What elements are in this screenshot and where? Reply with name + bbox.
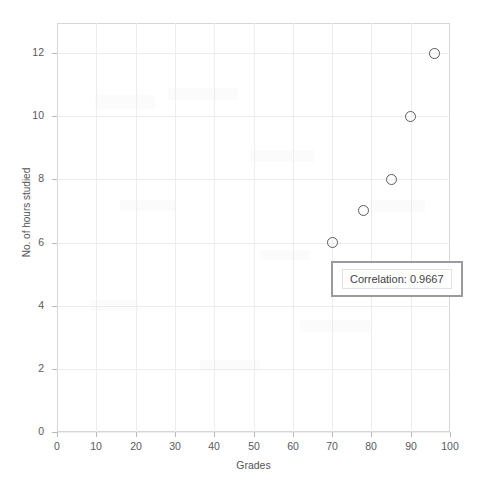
y-tick-label: 0 bbox=[18, 426, 44, 437]
x-tick-label: 90 bbox=[396, 441, 426, 452]
x-tick-mark bbox=[96, 432, 97, 437]
correlation-annotation-text: Correlation: 0.9667 bbox=[342, 269, 452, 289]
x-tick-mark bbox=[332, 432, 333, 437]
data-point bbox=[429, 48, 440, 59]
y-tick-label: 4 bbox=[18, 300, 44, 311]
x-tick-mark bbox=[371, 432, 372, 437]
y-tick-mark bbox=[52, 369, 57, 370]
x-tick-label: 0 bbox=[42, 441, 72, 452]
x-tick-mark bbox=[254, 432, 255, 437]
x-tick-label: 50 bbox=[239, 441, 269, 452]
gridline-vertical bbox=[175, 23, 176, 432]
data-point bbox=[405, 111, 416, 122]
x-tick-label: 70 bbox=[317, 441, 347, 452]
x-tick-mark bbox=[136, 432, 137, 437]
y-tick-label: 12 bbox=[18, 47, 44, 58]
x-tick-label: 10 bbox=[81, 441, 111, 452]
gridline-vertical bbox=[293, 23, 294, 432]
y-tick-mark bbox=[52, 179, 57, 180]
x-tick-mark bbox=[57, 432, 58, 437]
x-tick-label: 40 bbox=[199, 441, 229, 452]
y-tick-mark bbox=[52, 243, 57, 244]
x-tick-mark bbox=[450, 432, 451, 437]
y-tick-label: 2 bbox=[18, 363, 44, 374]
gridline-vertical bbox=[214, 23, 215, 432]
y-axis-title: No. of hours studied bbox=[21, 153, 32, 273]
y-tick-label: 10 bbox=[18, 110, 44, 121]
correlation-annotation-box: Correlation: 0.9667 bbox=[331, 261, 463, 297]
x-tick-mark bbox=[411, 432, 412, 437]
y-tick-mark bbox=[52, 116, 57, 117]
y-tick-mark bbox=[52, 53, 57, 54]
data-point bbox=[386, 174, 397, 185]
y-tick-mark bbox=[52, 306, 57, 307]
data-point bbox=[327, 237, 338, 248]
x-tick-mark bbox=[293, 432, 294, 437]
x-tick-label: 20 bbox=[121, 441, 151, 452]
gridline-vertical bbox=[254, 23, 255, 432]
x-tick-label: 60 bbox=[278, 441, 308, 452]
x-tick-label: 80 bbox=[356, 441, 386, 452]
x-axis-title: Grades bbox=[57, 459, 450, 471]
gridline-vertical bbox=[371, 23, 372, 432]
gridline-vertical bbox=[411, 23, 412, 432]
gridline-vertical bbox=[332, 23, 333, 432]
x-tick-mark bbox=[175, 432, 176, 437]
x-tick-label: 100 bbox=[435, 441, 465, 452]
x-tick-mark bbox=[214, 432, 215, 437]
gridline-vertical bbox=[136, 23, 137, 432]
gridline-vertical bbox=[96, 23, 97, 432]
x-tick-label: 30 bbox=[160, 441, 190, 452]
scatter-chart: 0246810120102030405060708090100 No. of h… bbox=[0, 0, 478, 487]
